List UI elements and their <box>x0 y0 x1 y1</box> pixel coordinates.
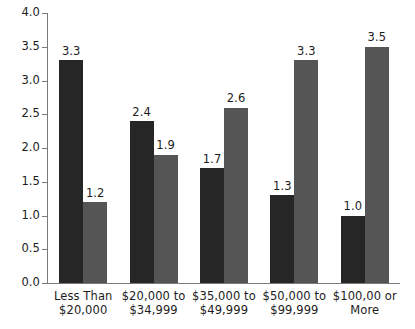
y-tick-mark <box>42 47 47 48</box>
x-category-label: $20,000 to$34,999 <box>118 289 188 317</box>
x-category-label: Less Than$20,000 <box>48 289 118 317</box>
x-category-label-line1: Less Than <box>54 289 112 303</box>
x-category-label-line1: $35,000 to <box>192 289 256 303</box>
bar-group: 1.33.3 <box>270 13 318 283</box>
y-tick-label: 2.0 <box>2 142 40 154</box>
x-category-label-line2: $34,999 <box>118 303 188 317</box>
x-category-label-line2: $49,999 <box>189 303 259 317</box>
x-axis-category-labels: Less Than$20,000$20,000 to$34,999$35,000… <box>48 289 400 329</box>
y-tick-mark <box>42 249 47 250</box>
x-category-label-line1: $100,00 or <box>333 289 397 303</box>
bar[interactable]: 3.3 <box>59 60 83 283</box>
y-tick-label: 4.0 <box>2 7 40 19</box>
y-tick-label: 2.5 <box>2 108 40 120</box>
y-tick-label: 1.0 <box>2 210 40 222</box>
y-tick-mark <box>42 114 47 115</box>
y-tick-label: 0.5 <box>2 243 40 255</box>
bar[interactable]: 1.0 <box>341 216 365 284</box>
x-category-label-line2: More <box>330 303 400 317</box>
x-category-label-line1: $20,000 to <box>122 289 186 303</box>
y-tick-mark <box>42 216 47 217</box>
bar[interactable]: 3.3 <box>294 60 318 283</box>
y-tick-label: 1.5 <box>2 176 40 188</box>
bar-value-label: 1.7 <box>203 154 222 166</box>
plot-area: 3.31.22.41.91.72.61.33.31.03.5 <box>48 13 400 283</box>
x-axis-line <box>47 283 400 284</box>
x-category-label-line2: $99,999 <box>259 303 329 317</box>
x-category-label: $50,000 to$99,999 <box>259 289 329 317</box>
bar-group: 2.41.9 <box>130 13 178 283</box>
y-tick-mark <box>42 13 47 14</box>
y-tick-mark <box>42 182 47 183</box>
y-tick-mark <box>42 148 47 149</box>
y-tick-label: 3.5 <box>2 41 40 53</box>
bar-group: 3.31.2 <box>59 13 107 283</box>
bar-value-label: 1.3 <box>273 181 292 193</box>
x-category-label-line1: $50,000 to <box>263 289 327 303</box>
bar-value-label: 1.2 <box>86 188 105 200</box>
y-tick-mark <box>42 81 47 82</box>
bar-value-label: 1.9 <box>156 140 175 152</box>
x-category-label: $35,000 to$49,999 <box>189 289 259 317</box>
bar-chart: 0.00.51.01.52.02.53.03.54.0 3.31.22.41.9… <box>0 0 415 329</box>
y-tick-label: 3.0 <box>2 75 40 87</box>
y-tick-mark <box>42 283 47 284</box>
bar[interactable]: 1.3 <box>270 195 294 283</box>
bar-value-label: 3.3 <box>62 46 81 58</box>
bar-value-label: 1.0 <box>344 201 363 213</box>
x-category-label-line2: $20,000 <box>48 303 118 317</box>
bar-group: 1.03.5 <box>341 13 389 283</box>
bar[interactable]: 1.9 <box>154 155 178 283</box>
bar-value-label: 3.3 <box>297 46 316 58</box>
bar[interactable]: 2.4 <box>130 121 154 283</box>
bar-value-label: 2.4 <box>132 107 151 119</box>
x-category-label: $100,00 orMore <box>330 289 400 317</box>
bar-value-label: 2.6 <box>227 93 246 105</box>
y-tick-label: 0.0 <box>2 277 40 289</box>
bar-group: 1.72.6 <box>200 13 248 283</box>
bar-value-label: 3.5 <box>368 32 387 44</box>
bar[interactable]: 2.6 <box>224 108 248 284</box>
y-axis: 0.00.51.01.52.02.53.03.54.0 <box>0 0 40 329</box>
bar[interactable]: 3.5 <box>365 47 389 283</box>
bar[interactable]: 1.7 <box>200 168 224 283</box>
bar[interactable]: 1.2 <box>83 202 107 283</box>
